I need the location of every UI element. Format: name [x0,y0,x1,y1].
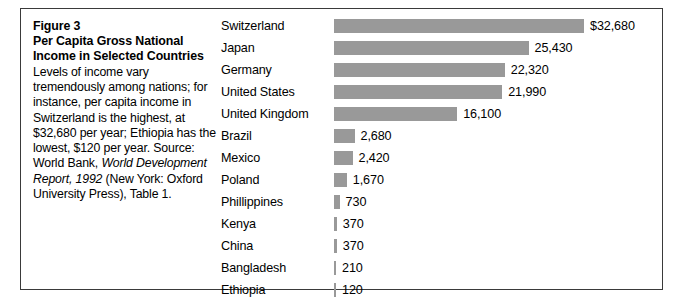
bar [334,173,347,187]
bar [334,63,505,77]
category-label: Mexico [221,147,324,169]
bar-track: 25,430 [334,37,658,59]
chart-row: Germany22,320 [221,59,658,81]
chart-row: Bangladesh210 [221,257,658,279]
category-label: Japan [221,37,324,59]
bar-value-label: 2,680 [355,125,392,147]
bar-track: 730 [334,191,658,213]
figure-caption-text: Levels of income vary tremendously among… [33,65,219,203]
bar-value-label: 21,990 [502,81,546,103]
bar [334,129,355,143]
bar-value-label: 370 [337,213,364,235]
figure-frame: Figure 3 Per Capita Gross National Incom… [20,8,663,290]
category-label: Germany [221,59,324,81]
chart-row: Switzerland$32,680 [221,15,658,37]
bar-track: 210 [334,257,658,279]
bar-track: 16,100 [334,103,658,125]
chart-row: United Kingdom16,100 [221,103,658,125]
category-label: Brazil [221,125,324,147]
chart-row: Ethiopia120 [221,279,658,301]
bar [334,41,529,55]
bar-track: 1,670 [334,169,658,191]
figure-title-line-1: Per Capita Gross National [33,34,219,49]
chart-row: United States21,990 [221,81,658,103]
bar-track: 120 [334,279,658,301]
bar-value-label: 22,320 [505,59,549,81]
bar-chart: Switzerland$32,680Japan25,430Germany22,3… [221,15,658,285]
chart-row: Mexico2,420 [221,147,658,169]
category-label: Poland [221,169,324,191]
bar-value-label: 370 [337,235,364,257]
category-label: Phillippines [221,191,324,213]
bar-track: 22,320 [334,59,658,81]
bar-track: 21,990 [334,81,658,103]
category-label: United States [221,81,324,103]
bar-value-label: 730 [340,191,367,213]
bar-value-label: 25,430 [529,37,573,59]
chart-row: Phillippines730 [221,191,658,213]
category-label: Switzerland [221,15,324,37]
chart-row: Poland1,670 [221,169,658,191]
bar-value-label: 2,420 [353,147,390,169]
bar [334,85,502,99]
figure-title-line-2: Income in Selected Countries [33,49,219,64]
bar-track: 370 [334,235,658,257]
category-label: Kenya [221,213,324,235]
chart-row: Brazil2,680 [221,125,658,147]
chart-row: China370 [221,235,658,257]
bar-track: 370 [334,213,658,235]
category-label: China [221,235,324,257]
bar-value-label: 1,670 [347,169,384,191]
caption-part-1: Levels of income vary tremendously among… [33,65,216,171]
bar [334,107,457,121]
bar-value-label: 16,100 [457,103,501,125]
bar-track: $32,680 [334,15,658,37]
chart-row: Kenya370 [221,213,658,235]
bar-value-label: 210 [336,257,363,279]
category-label: United Kingdom [221,103,324,125]
bar-track: 2,680 [334,125,658,147]
bar [334,151,353,165]
bar [334,19,584,33]
category-label: Ethiopia [221,279,324,301]
bar-value-label: 120 [336,279,363,301]
chart-row: Japan25,430 [221,37,658,59]
bar-value-label: $32,680 [584,15,635,37]
category-label: Bangladesh [221,257,324,279]
bar-track: 2,420 [334,147,658,169]
figure-caption-block: Figure 3 Per Capita Gross National Incom… [33,19,219,202]
figure-number: Figure 3 [33,19,219,34]
